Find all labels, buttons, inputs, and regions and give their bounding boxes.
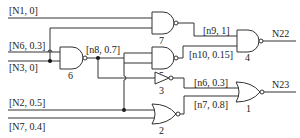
gate-5-nand [152,47,174,69]
gate-4-bubble [259,39,263,43]
input-label-n6: [N6, 0.3] [9,40,45,51]
gate-4-nand [237,30,259,52]
gate-6-bubble [83,56,87,60]
gate-4-number: 4 [245,52,250,63]
net-label-n10: [n10, 0.15] [189,49,233,60]
gate-7-nand [152,12,174,34]
circuit-diagram: 6 [n8, 0.7] 7 5 3 2 [n9, 1] [n10, 0.15] … [0,0,300,138]
wire-n8-gate3 [98,58,155,78]
net-label-n7: [n7, 0.8] [194,99,228,110]
net-label-n9: [n9, 1] [203,25,230,36]
gate-2-nor [152,104,176,124]
wire-n8-gate5-a [124,53,152,58]
output-label-n22: N22 [272,28,289,39]
input-label-n2: [N2, 0.5] [9,97,45,108]
circuit-svg: 6 [n8, 0.7] 7 5 3 2 [n9, 1] [n10, 0.15] … [0,0,300,138]
gate-2-bubble [176,112,180,116]
gate-1-bubble [260,90,264,94]
input-label-n1: [N1, 0] [9,5,38,16]
output-label-n23: N23 [272,79,289,90]
gate-7-number: 7 [159,35,164,46]
net-label-n8: [n8, 0.7] [86,44,120,55]
gate-3-bubble [169,76,173,80]
gate-7-bubble [174,21,178,25]
gate-1-number: 1 [246,103,251,114]
gate-3-number: 3 [159,85,164,96]
input-label-n7: [N7, 0.4] [9,121,45,132]
gate-2-number: 2 [159,125,164,136]
gate-6-number: 6 [68,70,73,81]
gate-1-nor [236,82,260,102]
junction-n3 [48,59,52,63]
gate-5-bubble [174,56,178,60]
gate-6-nand [60,47,83,69]
net-label-n6: [n6, 0.3] [194,77,228,88]
input-label-n3: [N3, 0] [9,62,38,73]
